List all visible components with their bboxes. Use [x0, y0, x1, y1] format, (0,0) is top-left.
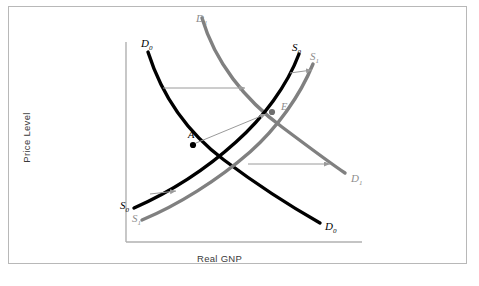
x-axis-label: Real GNP: [197, 253, 242, 264]
label-supply0-top: S0: [292, 42, 301, 56]
point-e-label: E: [281, 101, 287, 112]
label-demand0-right: D0: [325, 221, 336, 235]
point-a-label: A: [188, 129, 194, 140]
point-a-marker: [190, 142, 196, 148]
curve-demand-shifted: [202, 18, 345, 173]
diagram-svg: [0, 0, 479, 286]
arrow-equilibrium-move: [196, 114, 266, 143]
label-demand0-top: D0: [141, 38, 152, 52]
label-supply0-bottom: S0: [120, 200, 129, 214]
figure-canvas: Price Level Real GNP D0 D1 D1 D0 S0 S1 S…: [0, 0, 479, 286]
label-demand1-top: D1: [196, 13, 207, 27]
label-supply1-top: S1: [310, 51, 319, 65]
label-demand1-right: D1: [351, 173, 362, 187]
y-axis-label: Price Level: [21, 88, 32, 188]
label-supply1-bottom: S1: [132, 213, 141, 227]
point-e-marker: [269, 109, 275, 115]
curve-supply-shifted: [142, 64, 313, 220]
